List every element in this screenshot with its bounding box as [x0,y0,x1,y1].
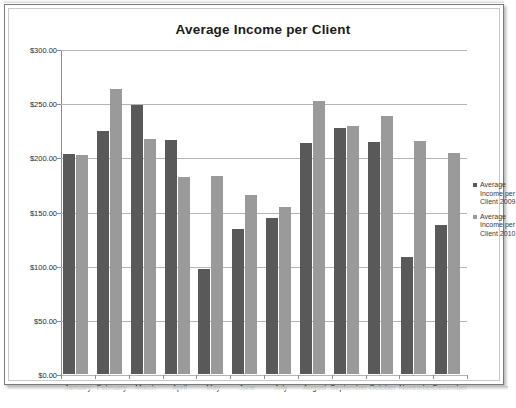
x-axis-tick-mark [163,375,164,379]
y-axis-tick-mark [57,213,61,214]
y-axis-tick-mark [57,375,61,376]
chart: Average Income per Client JanuaryFebruar… [9,9,516,398]
y-axis-tick-mark [57,50,61,51]
page-scan-edge [4,0,504,3]
bar-group [230,49,264,374]
page-drop-shadow [8,386,508,390]
x-axis-tick-mark [366,375,367,379]
bar-group [61,49,95,374]
bar [178,177,190,374]
legend-label: Average Income per Client 2009 [480,181,516,207]
bar-group [264,49,298,374]
bar-group [196,49,230,374]
bar [211,176,223,374]
bar [165,140,177,374]
y-axis-tick-label: $200.00 [11,154,57,163]
bar [435,225,447,375]
bar [76,155,88,374]
bar [401,257,413,374]
bar [97,131,109,374]
document-page: Average Income per Client JanuaryFebruar… [4,4,504,385]
bar [266,218,278,374]
bar-group [366,49,400,374]
bar [144,139,156,374]
bar [381,116,393,374]
bar [245,195,257,374]
chart-legend: Average Income per Client 2009Average In… [473,181,516,245]
x-axis-tick-mark [230,375,231,379]
bar [131,105,143,374]
legend-swatch-icon [473,215,477,219]
plot-area: JanuaryFebruaryMarchAprilMayJuneJulyAugu… [61,50,467,375]
y-axis-tick-label: $50.00 [11,316,57,325]
bar-group [95,49,129,374]
bar [300,143,312,374]
bar [347,126,359,374]
x-axis-tick-mark [129,375,130,379]
bar-group [332,49,366,374]
bar [313,101,325,374]
legend-entry: Average Income per Client 2009 [473,181,516,207]
legend-label: Average Income per Client 2010 [480,213,516,239]
x-axis-tick-mark [95,375,96,379]
x-axis-tick-mark [298,375,299,379]
bar [198,269,210,374]
bar-group [399,49,433,374]
bar-group [298,49,332,374]
x-axis-tick-mark [196,375,197,379]
bar [232,229,244,374]
bar [414,141,426,374]
bar [63,154,75,374]
bar [110,89,122,374]
x-axis-tick-mark [399,375,400,379]
y-axis-tick-label: $0.00 [11,371,57,380]
y-axis-tick-label: $150.00 [11,208,57,217]
y-axis-tick-label: $300.00 [11,46,57,55]
x-axis-tick-mark [61,375,62,379]
bar [279,207,291,374]
y-axis-tick-mark [57,321,61,322]
bar [368,142,380,374]
legend-entry: Average Income per Client 2010 [473,213,516,239]
page-inner-border: Average Income per Client JanuaryFebruar… [8,8,500,381]
x-axis-tick-mark [467,375,468,379]
bar-group [129,49,163,374]
legend-swatch-icon [473,183,477,187]
chart-title: Average Income per Client [9,22,516,37]
y-axis-tick-label: $100.00 [11,262,57,271]
x-axis-tick-mark [264,375,265,379]
x-axis-tick-mark [332,375,333,379]
y-axis-tick-mark [57,158,61,159]
x-axis-tick-mark [433,375,434,379]
y-axis-tick-mark [57,104,61,105]
y-axis-tick-label: $250.00 [11,100,57,109]
y-axis-tick-mark [57,267,61,268]
bar-group [163,49,197,374]
bar [448,153,460,374]
bar [334,128,346,374]
bar-group [433,49,467,374]
